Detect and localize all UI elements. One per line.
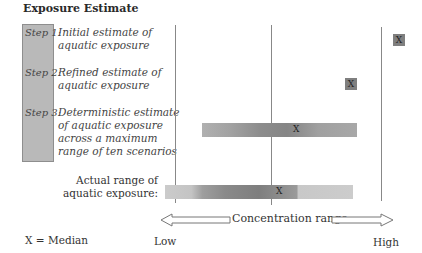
actual-range-line-1: Actual range of <box>62 174 158 187</box>
actual-range-bar <box>165 185 353 199</box>
step-1-line-1: Initial estimate of <box>58 26 152 39</box>
axis-high-label: High <box>373 236 399 248</box>
vertical-line-left <box>175 25 176 203</box>
step-3-label: Step 3: <box>25 107 61 118</box>
step-3-line-3: across a maximum <box>58 132 180 145</box>
step-2-line-2: aquatic exposure <box>58 79 162 92</box>
diagram-title: Exposure Estimate <box>23 2 138 15</box>
axis-low-label: Low <box>154 235 176 247</box>
step-3-line-1: Deterministic estimate <box>58 106 180 119</box>
step-1-description: Initial estimate of aquatic exposure <box>58 26 152 52</box>
step-2-label: Step 2: <box>25 67 61 78</box>
actual-range-median-marker: X <box>276 186 282 196</box>
step-3-line-2: of aquatic exposure <box>58 119 180 132</box>
step-1-label: Step 1: <box>25 27 61 38</box>
arrow-left-icon <box>160 213 232 227</box>
vertical-line-right <box>381 27 382 201</box>
step-2-line-1: Refined estimate of <box>58 66 162 79</box>
arrow-right-icon <box>331 213 395 227</box>
actual-range-label: Actual range of aquatic exposure: <box>62 174 158 200</box>
vertical-line-middle <box>271 25 272 205</box>
step-2-description: Refined estimate of aquatic exposure <box>58 66 162 92</box>
step-2-median-marker: X <box>345 78 357 90</box>
step-3-median-marker: X <box>293 124 299 134</box>
step-1-median-marker: X <box>393 34 405 46</box>
median-legend: X = Median <box>25 234 88 246</box>
step-3-range-bar <box>202 123 357 137</box>
step-3-description: Deterministic estimate of aquatic exposu… <box>58 106 180 158</box>
step-3-line-4: range of ten scenarios <box>58 145 180 158</box>
step-1-line-2: aquatic exposure <box>58 39 152 52</box>
step-column-box <box>22 24 54 162</box>
actual-range-line-2: aquatic exposure: <box>62 187 158 200</box>
